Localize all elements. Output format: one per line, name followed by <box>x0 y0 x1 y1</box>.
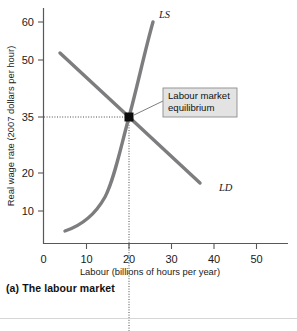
equilibrium-callout-line-1: Labour market <box>168 90 230 101</box>
y-tick-label-60: 60 <box>22 16 34 28</box>
x-tick-label-0: 0 <box>40 253 46 265</box>
x-axis-ticks <box>87 244 257 250</box>
y-tick-label-35: 35 <box>22 111 34 123</box>
x-tick-label-50: 50 <box>250 253 262 265</box>
ls-curve-label: LS <box>158 9 171 20</box>
equilibrium-leader-line <box>134 101 163 115</box>
x-axis-title: Labour (billions of hours per year) <box>80 266 220 277</box>
y-tick-label-50: 50 <box>22 54 34 66</box>
x-tick-label-30: 30 <box>165 253 177 265</box>
ld-curve-label: LD <box>218 182 233 193</box>
equilibrium-point-marker <box>125 113 134 122</box>
x-axis-tick-labels: 0 10 20 30 40 50 <box>40 253 262 265</box>
x-tick-label-10: 10 <box>80 253 92 265</box>
y-axis-ticks <box>38 22 44 211</box>
y-tick-label-10: 10 <box>22 205 34 217</box>
x-tick-label-40: 40 <box>208 253 220 265</box>
y-axis-title: Real wage rate (2007 dollars per hour) <box>5 46 16 207</box>
y-tick-label-20: 20 <box>22 167 34 179</box>
y-axis-tick-labels: 60 50 35 20 10 <box>22 16 34 217</box>
equilibrium-callout-line-2: equilibrium <box>168 102 214 113</box>
labour-market-figure: 60 50 35 20 10 0 10 20 30 40 50 Labour (… <box>0 0 297 331</box>
axis-lines <box>44 8 289 244</box>
figure-caption: (a) The labour market <box>6 282 115 294</box>
